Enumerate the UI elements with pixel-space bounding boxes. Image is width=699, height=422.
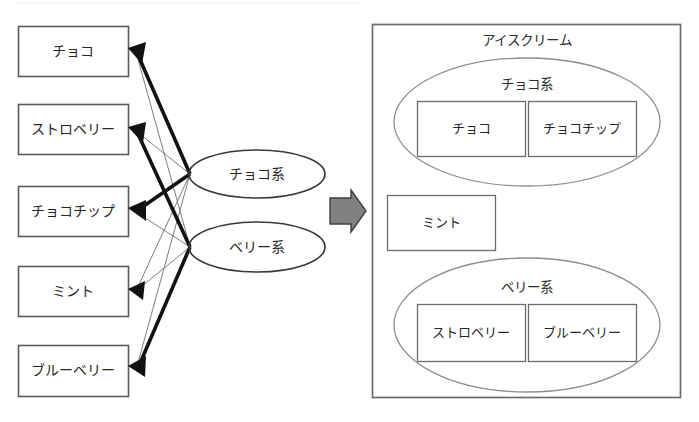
group-ellipse-choco-kei[interactable]: チョコ系 — [189, 150, 325, 198]
group-ellipse-berry-kei[interactable]: ベリー系 — [189, 222, 325, 272]
result-container-label: アイスクリーム — [482, 33, 572, 48]
diagram-canvas: チョコ ストロベリー チョコチップ ミント ブルーベリー — [0, 0, 699, 422]
flavor-label-mint: ミント — [52, 283, 94, 299]
result-cluster-label-choco: チョコ系 — [501, 77, 553, 92]
flavor-box-strawberry[interactable]: ストロベリー — [19, 105, 129, 155]
arrowhead-strawberry — [128, 122, 146, 143]
group-label-choco-kei: チョコ系 — [229, 166, 285, 182]
result-label-mint: ミント — [422, 215, 461, 230]
edge-berrykei-blueberry-strong — [138, 247, 190, 368]
arrowhead-blueberry — [128, 356, 146, 377]
flavor-box-chocochip[interactable]: チョコチップ — [19, 187, 129, 237]
arrowhead-group — [128, 42, 146, 377]
result-box-mint[interactable]: ミント — [388, 196, 496, 251]
result-box-chocochip[interactable]: チョコチップ — [529, 102, 637, 157]
result-box-blueberry[interactable]: ブルーベリー — [529, 305, 637, 362]
group-label-berry-kei: ベリー系 — [229, 239, 285, 255]
edge-chocokei-choco-strong — [138, 55, 190, 174]
flavor-box-mint[interactable]: ミント — [19, 267, 129, 317]
arrowhead-choco — [128, 42, 146, 64]
result-label-chocochip: チョコチップ — [543, 121, 621, 136]
flavor-box-choco[interactable]: チョコ — [19, 27, 129, 77]
flavor-label-blueberry: ブルーベリー — [31, 362, 115, 378]
flavor-label-choco: チョコ — [52, 43, 94, 59]
flavor-label-strawberry: ストロベリー — [31, 121, 115, 137]
result-box-choco[interactable]: チョコ — [418, 102, 526, 157]
arrowhead-chocochip — [128, 200, 146, 221]
right-block-arrow-icon — [330, 190, 366, 232]
result-box-strawberry[interactable]: ストロベリー — [418, 305, 526, 362]
result-label-blueberry: ブルーベリー — [543, 325, 621, 340]
clustering-diagram: チョコ ストロベリー チョコチップ ミント ブルーベリー — [0, 0, 699, 422]
flavor-label-chocochip: チョコチップ — [31, 203, 115, 219]
result-label-choco: チョコ — [452, 121, 491, 136]
result-cluster-label-berry: ベリー系 — [501, 280, 553, 295]
result-label-strawberry: ストロベリー — [432, 325, 510, 340]
flavor-box-blueberry[interactable]: ブルーベリー — [19, 346, 129, 397]
arrowhead-mint — [128, 281, 145, 300]
